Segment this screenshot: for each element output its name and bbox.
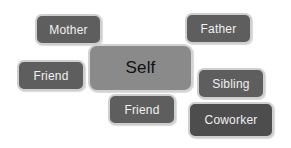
node-mother: Mother [35, 14, 102, 45]
relationship-diagram: Mother Father Friend Self Sibling Friend… [0, 0, 291, 148]
node-friend-center: Friend [108, 94, 176, 125]
center-label: Self [125, 58, 155, 78]
node-self: Self [88, 44, 193, 92]
node-label: Sibling [212, 77, 249, 91]
node-father: Father [185, 13, 252, 44]
node-sibling: Sibling [197, 68, 265, 99]
node-coworker: Coworker [188, 102, 274, 138]
node-label: Friend [33, 69, 68, 83]
node-label: Coworker [205, 113, 258, 127]
node-label: Father [201, 22, 237, 36]
node-label: Mother [49, 23, 88, 37]
node-label: Friend [124, 103, 159, 117]
node-friend-left: Friend [17, 60, 85, 91]
